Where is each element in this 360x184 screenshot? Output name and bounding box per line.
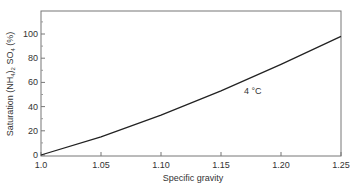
x-tick-label: 1.15 [212, 160, 230, 170]
y-axis-label: Saturation (NH4)2 SO4 (%) [5, 32, 16, 137]
plot-frame [41, 11, 341, 156]
x-tick-label: 1.25 [332, 160, 350, 170]
y-tick-label: 60 [28, 77, 38, 87]
x-axis-ticks: 1.01.051.101.151.201.25 [35, 152, 350, 170]
x-tick-label: 1.0 [35, 160, 48, 170]
saturation-curve [41, 36, 341, 155]
y-tick-label: 20 [28, 126, 38, 136]
y-tick-label: 40 [28, 102, 38, 112]
x-tick-label: 1.20 [272, 160, 290, 170]
y-axis-ticks: 020406080100 [23, 22, 45, 160]
y-tick-label: 0 [33, 150, 38, 160]
curve-annotation: 4 °C [244, 86, 262, 96]
saturation-chart: 020406080100 1.01.051.101.151.201.25 4 °… [0, 0, 360, 184]
x-axis-label: Specific gravity [163, 173, 224, 183]
y-tick-label: 100 [23, 29, 38, 39]
x-tick-label: 1.10 [152, 160, 170, 170]
y-tick-label: 80 [28, 53, 38, 63]
x-tick-label: 1.05 [92, 160, 110, 170]
